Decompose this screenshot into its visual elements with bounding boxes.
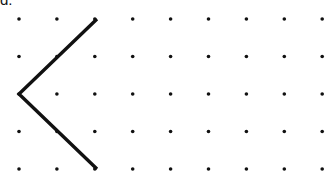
grid-dot xyxy=(93,55,97,59)
grid-dot xyxy=(283,130,287,134)
grid-dot xyxy=(245,92,249,96)
grid-dot xyxy=(169,17,173,21)
grid-dot xyxy=(320,55,324,59)
grid-dot xyxy=(131,17,135,21)
dot-grid xyxy=(17,17,324,171)
grid-dot xyxy=(245,130,249,134)
grid-dot xyxy=(131,55,135,59)
grid-dot xyxy=(55,167,59,171)
grid-dot xyxy=(169,130,173,134)
grid-dot xyxy=(283,17,287,21)
grid-dot xyxy=(169,167,173,171)
grid-dot xyxy=(131,92,135,96)
grid-dot xyxy=(207,167,211,171)
grid-dot xyxy=(131,167,135,171)
grid-dot xyxy=(17,130,21,134)
grid-dot xyxy=(320,92,324,96)
grid-dot xyxy=(207,130,211,134)
grid-dot xyxy=(320,130,324,134)
grid-dot xyxy=(55,17,59,21)
grid-dot xyxy=(93,92,97,96)
grid-dot xyxy=(17,55,21,59)
grid-dot xyxy=(93,130,97,134)
grid-dot xyxy=(320,167,324,171)
grid-dot xyxy=(283,55,287,59)
grid-dot xyxy=(17,167,21,171)
grid-dot xyxy=(320,17,324,21)
grid-dot xyxy=(283,92,287,96)
grid-dot xyxy=(245,17,249,21)
grid-dot xyxy=(245,55,249,59)
grid-dot xyxy=(283,167,287,171)
grid-dot xyxy=(131,130,135,134)
figure-canvas: d. xyxy=(0,0,336,181)
dot-grid-figure xyxy=(0,0,336,181)
grid-dot xyxy=(169,55,173,59)
grid-dot xyxy=(207,55,211,59)
grid-dot xyxy=(169,92,173,96)
grid-dot xyxy=(207,17,211,21)
grid-dot xyxy=(207,92,211,96)
grid-dot xyxy=(245,167,249,171)
grid-dot xyxy=(17,17,21,21)
grid-dot xyxy=(55,92,59,96)
